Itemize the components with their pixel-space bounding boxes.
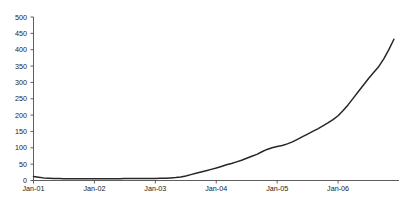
y-tick-label-group: 050100150200250300350400450500 <box>15 13 27 186</box>
line-chart: 050100150200250300350400450500 Jan-01Jan… <box>0 0 405 215</box>
x-tick-label-group: Jan-01Jan-02Jan-03Jan-04Jan-05Jan-06 <box>23 184 350 193</box>
data-series-line <box>34 39 394 179</box>
y-tick-label: 500 <box>15 13 27 22</box>
y-tick-label: 300 <box>15 78 27 87</box>
y-tick-label: 250 <box>15 94 27 103</box>
y-tick-label: 150 <box>15 127 27 136</box>
y-tick-label: 200 <box>15 111 27 120</box>
x-tick-label: Jan-06 <box>327 184 349 193</box>
y-tick-label: 450 <box>15 29 27 38</box>
y-tick-label: 400 <box>15 45 27 54</box>
x-tick-label: Jan-02 <box>83 184 105 193</box>
y-tick-label: 100 <box>15 143 27 152</box>
y-tick-label: 350 <box>15 62 27 71</box>
x-tick-label: Jan-01 <box>23 184 45 193</box>
y-tick-label: 50 <box>19 160 27 169</box>
chart-plot-area: 050100150200250300350400450500 Jan-01Jan… <box>0 0 405 215</box>
x-tick-label: Jan-04 <box>205 184 227 193</box>
x-tick-label: Jan-05 <box>266 184 288 193</box>
x-tick-label: Jan-03 <box>144 184 166 193</box>
